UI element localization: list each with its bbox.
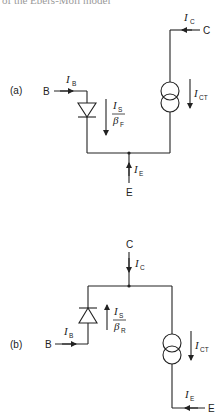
diode-current-den-sub-b: R — [121, 327, 126, 334]
base-current-sub-b: B — [69, 332, 73, 339]
emitter-terminal-b: E — [208, 403, 215, 414]
collector-terminal-b: C — [126, 239, 133, 250]
base-terminal-b: B — [45, 339, 52, 350]
base-current-sub-a: B — [72, 80, 76, 87]
diode-current-num-sub-b: S — [119, 312, 124, 319]
diode-b — [79, 308, 97, 323]
base-current-symbol-a: I — [65, 73, 71, 85]
source-current-sub-a: CT — [199, 94, 208, 101]
diode-current-den-symbol-b: β — [113, 320, 120, 332]
ebers-moll-diagram: (a) C I C I CT B I B I S β — [0, 0, 222, 418]
circuit-b: (b) C I C I S β R B I B — [10, 239, 215, 414]
circuit-a: (a) C I C I CT B I B I S β — [10, 11, 210, 198]
diode-current-num-sub-a: S — [118, 106, 123, 113]
base-terminal-a: B — [43, 86, 50, 97]
diode-current-den-sub-a: F — [120, 121, 124, 128]
junction-dot-b — [127, 284, 130, 287]
collector-current-sub-b: C — [140, 264, 145, 271]
source-current-sub-b: CT — [200, 346, 209, 353]
collector-current-sub-a: C — [190, 18, 195, 25]
emitter-terminal-a: E — [126, 187, 133, 198]
emitter-current-sub-a: E — [139, 170, 144, 177]
current-source-b — [163, 334, 181, 364]
circuit-a-label: (a) — [10, 85, 22, 96]
current-source-a — [161, 82, 179, 112]
circuit-b-label: (b) — [10, 339, 22, 350]
diode-current-den-symbol-a: β — [112, 114, 119, 126]
collector-terminal-a: C — [203, 25, 210, 36]
emitter-current-sub-b: E — [190, 395, 195, 402]
diode-a — [78, 103, 96, 117]
collector-current-symbol-a: I — [183, 11, 189, 23]
